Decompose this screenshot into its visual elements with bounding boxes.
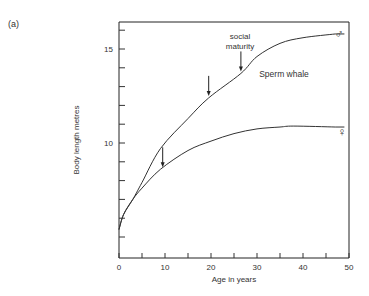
female-growth-curve [119,126,344,229]
axis-ticks [119,30,349,258]
male-growth-curve [119,34,344,230]
panel-label: (a) [8,19,19,29]
svg-text:10: 10 [104,139,113,148]
annotation-social: social [230,32,251,41]
maturity-arrows [161,51,243,167]
svg-text:40: 40 [299,263,308,272]
svg-text:15: 15 [104,45,113,54]
plot-frame [119,22,349,258]
svg-text:20: 20 [207,263,216,272]
female-symbol-icon: ♀ [338,125,347,139]
species-label: Sperm whale [259,69,309,79]
y-axis-label: Body length metres [72,106,81,175]
svg-text:10: 10 [161,263,170,272]
svg-text:0: 0 [117,263,122,272]
svg-text:50: 50 [345,263,354,272]
tick-labels: 010203040501015 [104,45,354,272]
svg-text:30: 30 [253,263,262,272]
growth-chart: (a) 010203040501015 Age in years Body le… [0,0,369,296]
annotation-maturity: maturity [226,42,254,51]
male-symbol-icon: ♂ [335,27,344,41]
x-axis-label: Age in years [212,275,256,284]
